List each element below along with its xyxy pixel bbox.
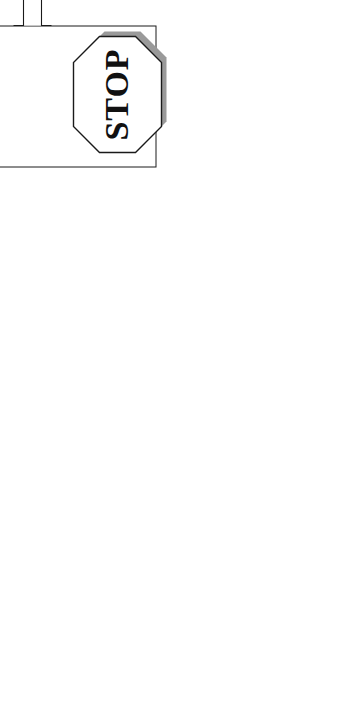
connector-arrow-stop-to-methods (0, 0, 68, 26)
stop-shape-label: STOP (98, 48, 135, 140)
worksheet-page: EXTREME EMOTION 100 90 80 70 60 50 40 30… (0, 0, 359, 724)
stop-sign-shape: STOP (68, 33, 168, 161)
worksheet-canvas: EXTREME EMOTION 100 90 80 70 60 50 40 30… (0, 0, 177, 183)
